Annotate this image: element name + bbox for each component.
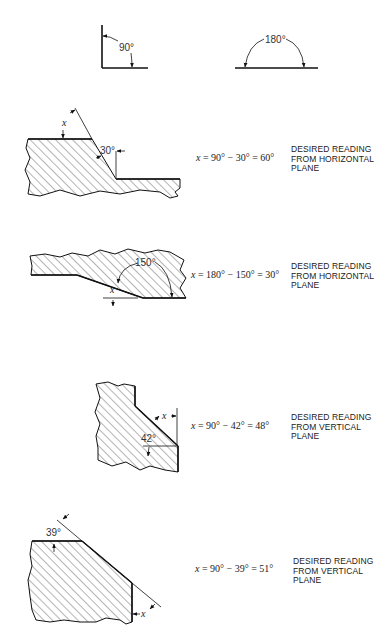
example-4-note: DESIRED READINGFROM VERTICALPLANE [293,557,373,586]
example-1-equation: x = 90° − 30° = 60° [196,152,274,163]
straight-angle-reference: 180° [235,34,318,68]
straight-angle-label: 180° [265,34,286,45]
right-angle-reference: 90° [102,25,148,68]
example-4-equation: x = 90° − 39° = 51° [195,563,273,574]
example-1-x-label: x [61,117,67,128]
example-4-x-label: x [140,608,146,619]
example-2-x-label: x [109,284,115,295]
right-angle-label: 90° [119,42,134,53]
example-1-note: DESIRED READINGFROM HORIZONTALPLANE [291,145,374,174]
example-4-figure: x 39° [28,514,161,624]
example-3-angle-label: 42° [141,433,156,444]
example-2-figure: x 150° [30,249,186,306]
angle-diagram: 90° 180° x 30° x 150° [0,0,390,637]
example-2-note: DESIRED READINGFROM HORIZONTALPLANE [291,262,374,291]
example-4-angle-label: 39° [46,527,61,538]
example-1-figure: x 30° [25,108,180,198]
example-3-x-label: x [161,410,167,421]
example-3-equation: x = 90° − 42° = 48° [191,420,269,431]
example-3-figure: x 42° [95,382,178,472]
example-3-note: DESIRED READINGFROM VERTICALPLANE [291,413,371,442]
example-1-angle-label: 30° [100,145,115,156]
example-2-equation: x = 180° − 150° = 30° [191,269,279,280]
example-2-angle-label: 150° [135,257,156,268]
